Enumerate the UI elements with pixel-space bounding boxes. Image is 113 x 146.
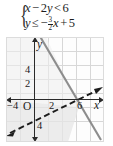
inequality-1: x−2y<6 — [25, 1, 75, 16]
inequality-2: y≤−32x+5 — [25, 16, 75, 32]
x-axis-arrow-right — [99, 97, 104, 103]
inequality-1-minus: − — [31, 1, 41, 15]
figure-root: { x−2y<6 y≤−32x+5 — [0, 0, 113, 146]
x-tick-label-2: 2 — [49, 101, 54, 112]
solid-boundary-line — [38, 37, 101, 140]
system-of-inequalities: { x−2y<6 y≤−32x+5 — [0, 1, 113, 34]
inequality-1-rhs: 6 — [63, 1, 69, 15]
inequality-2-negative: − — [40, 16, 47, 30]
coordinate-graph: −4 O 2 6 x 4 2 4 y — [6, 37, 104, 142]
inequality-1-term: 2y — [41, 1, 53, 15]
inequality-2-plus: + — [59, 16, 69, 30]
dashed-line-arrow-right — [94, 87, 103, 94]
inequality-2-y: y — [25, 16, 31, 30]
y-axis — [34, 39, 35, 140]
x-tick-label-6: 6 — [77, 101, 82, 112]
inequality-2-relation: ≤ — [31, 16, 41, 30]
x-axis-label: x — [94, 100, 99, 111]
y-tick-label-neg4: 4 — [37, 121, 42, 132]
origin-label: O — [23, 101, 31, 112]
inequality-1-x: x — [25, 1, 31, 15]
inequality-2-rhs: 5 — [69, 16, 75, 30]
equations-block: x−2y<6 y≤−32x+5 — [25, 1, 75, 32]
y-tick-label-4: 4 — [25, 65, 30, 76]
inequality-2-var: x — [53, 16, 59, 30]
y-axis-label: y — [37, 39, 42, 50]
y-tick-label-2: 2 — [25, 79, 30, 90]
boundary-lines — [6, 37, 104, 142]
x-tick-label-minus4: −4 — [7, 101, 18, 112]
y-axis-arrow-down — [32, 137, 38, 142]
inequality-1-relation: < — [52, 1, 62, 15]
